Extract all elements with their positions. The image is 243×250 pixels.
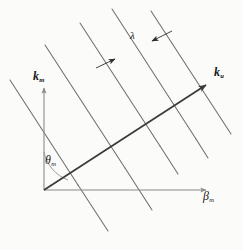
wavelength-symbol: λ — [130, 29, 135, 41]
vertical-axis-subscript: m — [39, 76, 44, 83]
wave-vector-diagram: km ku βm θm λ — [0, 0, 243, 250]
wavefront-lines — [10, 9, 231, 231]
horizontal-axis-subscript: m — [209, 196, 214, 203]
vertical-axis-label: km — [33, 70, 44, 82]
wavefront-line — [196, 139, 208, 158]
wavefront-line — [80, 23, 160, 146]
wavefront-line — [78, 185, 108, 231]
propagation-vector-label: ku — [214, 66, 224, 78]
wavelength-label: λ — [130, 30, 135, 41]
wavefront-line — [160, 146, 178, 174]
angle-subscript: m — [51, 160, 56, 167]
wavefront-line — [125, 168, 152, 210]
diagram-canvas — [0, 0, 243, 250]
angle-label: θm — [45, 154, 56, 166]
propagation-vector — [44, 85, 206, 190]
horizontal-axis-label: βm — [203, 190, 214, 202]
propagation-vector-subscript: u — [220, 72, 224, 79]
wavefront-line — [45, 45, 125, 168]
lambda-arrow-left — [96, 59, 115, 68]
